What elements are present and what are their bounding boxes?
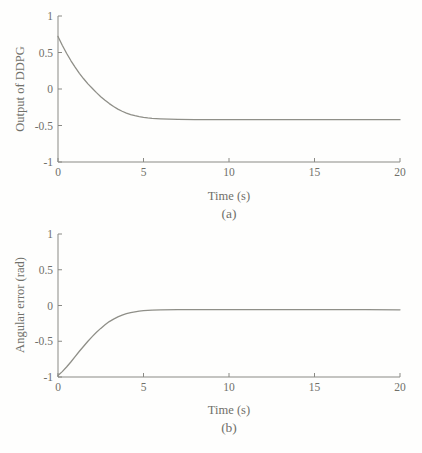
chart-a-axes xyxy=(58,16,400,162)
chart-b-x-tick-label: 10 xyxy=(223,381,235,393)
chart-b-x-tick-label: 15 xyxy=(309,381,321,393)
chart-a-y-tick-label: 0.5 xyxy=(39,47,54,59)
chart-b-series-line xyxy=(58,310,400,376)
chart-b-y-tick-label: -0.5 xyxy=(35,335,53,347)
chart-a-y-tick-label: -1 xyxy=(43,156,53,168)
charts-canvas: 10.50-0.5-10510152010.50-0.5-105101520 xyxy=(0,0,422,453)
chart-a-x-tick-label: 10 xyxy=(223,166,235,178)
chart-a-series-line xyxy=(58,36,400,119)
chart-b-x-tick-label: 5 xyxy=(141,381,147,393)
chart-b-y-tick-label: 0 xyxy=(47,300,53,312)
chart-b-caption: (b) xyxy=(221,420,237,436)
chart-b-y-tick-label: -1 xyxy=(43,371,53,383)
chart-b-x-tick-label: 0 xyxy=(55,381,61,393)
chart-b-y-axis-label: Angular error (rad) xyxy=(13,257,28,353)
chart-a-y-tick-label: 1 xyxy=(47,10,53,22)
figure: 10.50-0.5-10510152010.50-0.5-105101520 O… xyxy=(0,0,422,453)
chart-a-y-tick-label: -0.5 xyxy=(35,120,53,132)
chart-a-x-axis-label: Time (s) xyxy=(208,189,250,204)
chart-a-caption: (a) xyxy=(222,206,237,222)
chart-b-x-axis-label: Time (s) xyxy=(208,403,250,418)
chart-b-y-tick-label: 0.5 xyxy=(39,264,54,276)
chart-a-y-axis-label: Output of DDPG xyxy=(13,46,28,131)
chart-a-x-tick-label: 20 xyxy=(394,166,406,178)
chart-b-x-tick-label: 20 xyxy=(394,381,406,393)
chart-b-y-tick-label: 1 xyxy=(47,228,53,240)
chart-b-axes xyxy=(58,234,400,377)
chart-a-y-tick-label: 0 xyxy=(47,83,53,95)
chart-a-x-tick-label: 0 xyxy=(55,166,61,178)
chart-a-x-tick-label: 5 xyxy=(141,166,147,178)
chart-a-x-tick-label: 15 xyxy=(309,166,321,178)
